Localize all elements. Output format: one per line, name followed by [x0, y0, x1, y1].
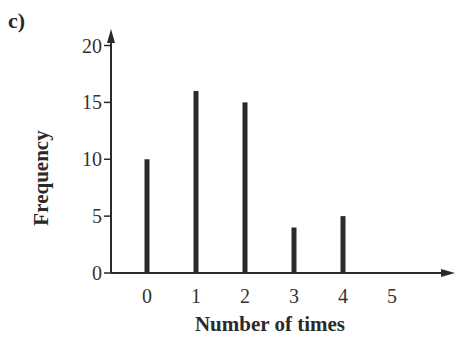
y-tick-label: 20 — [82, 35, 102, 57]
y-axis-arrow-icon — [107, 29, 115, 43]
bar — [341, 216, 346, 273]
y-axis-ticks: 05101520 — [82, 35, 111, 285]
y-axis-title: Frequency — [29, 130, 53, 226]
y-tick-label: 5 — [92, 205, 102, 227]
x-tick-label: 4 — [338, 285, 348, 307]
x-tick-label: 3 — [289, 285, 299, 307]
y-tick-label: 0 — [92, 262, 102, 284]
bar — [194, 91, 199, 273]
x-tick-label: 2 — [240, 285, 250, 307]
bar — [243, 102, 248, 273]
x-tick-label: 0 — [142, 285, 152, 307]
bar — [292, 228, 297, 274]
x-axis-arrow-icon — [441, 269, 455, 277]
bar-chart: 05101520 012345 Number of times Frequenc… — [0, 0, 459, 344]
y-tick-label: 10 — [82, 148, 102, 170]
x-tick-label: 1 — [191, 285, 201, 307]
x-axis-title: Number of times — [195, 312, 345, 336]
bar — [145, 159, 150, 273]
x-tick-label: 5 — [387, 285, 397, 307]
bars — [145, 91, 346, 273]
y-tick-label: 15 — [82, 91, 102, 113]
x-axis-tick-labels: 012345 — [142, 285, 397, 307]
